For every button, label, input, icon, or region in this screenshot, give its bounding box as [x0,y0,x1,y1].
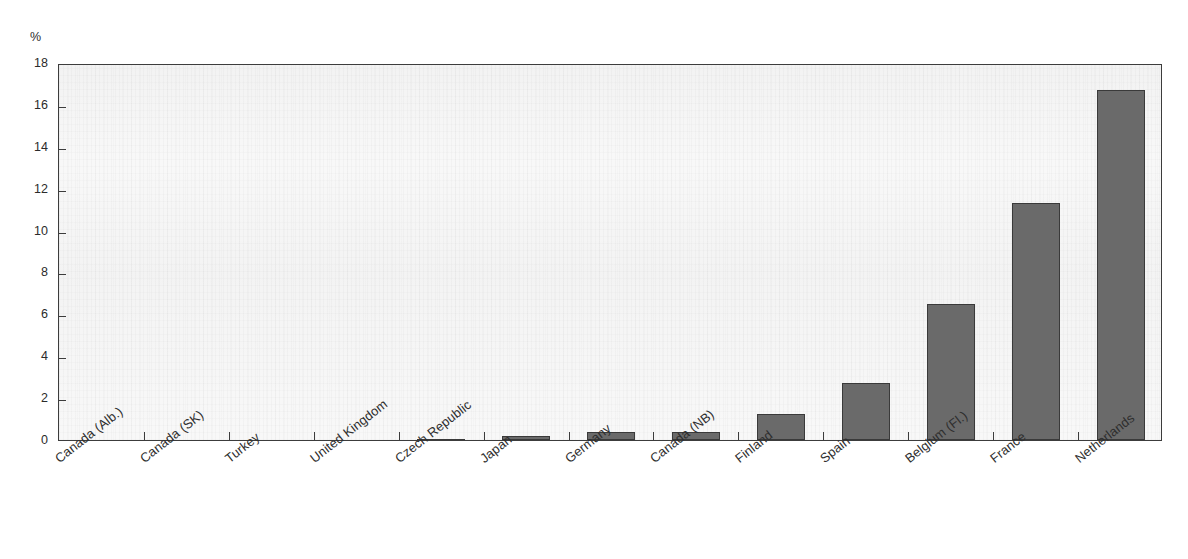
bar-chart-figure: % 024681012141618 Canada (Alb.)Canada (S… [0,0,1188,559]
x-tick-mark [653,432,654,440]
y-tick-label: 6 [10,307,48,321]
bar [1012,203,1060,440]
y-tick-label: 8 [10,265,48,279]
y-tick-label: 4 [10,349,48,363]
y-tick-label: 16 [10,98,48,112]
x-tick-mark [738,432,739,440]
x-tick-mark [229,432,230,440]
x-tick-mark [908,432,909,440]
y-tick-label: 18 [10,56,48,70]
y-tick-label: 10 [10,224,48,238]
x-tick-mark [144,432,145,440]
y-tick-mark [59,316,66,317]
y-tick-label: 14 [10,140,48,154]
x-tick-mark [1078,432,1079,440]
paper-texture [59,65,1161,440]
y-tick-label: 0 [10,433,48,447]
x-tick-mark [993,432,994,440]
x-tick-mark [823,432,824,440]
x-tick-mark [314,432,315,440]
y-tick-mark [59,107,66,108]
plot-area [58,64,1162,441]
y-tick-mark [59,191,66,192]
y-tick-mark [59,274,66,275]
y-axis-unit-label: % [30,30,41,44]
x-tick-mark [399,432,400,440]
x-tick-mark [484,432,485,440]
y-tick-label: 12 [10,182,48,196]
bar [1097,90,1145,440]
y-tick-mark [59,233,66,234]
y-tick-mark [59,358,66,359]
y-tick-mark [59,400,66,401]
bar [842,383,890,440]
y-tick-label: 2 [10,391,48,405]
x-tick-mark [569,432,570,440]
y-tick-mark [59,149,66,150]
